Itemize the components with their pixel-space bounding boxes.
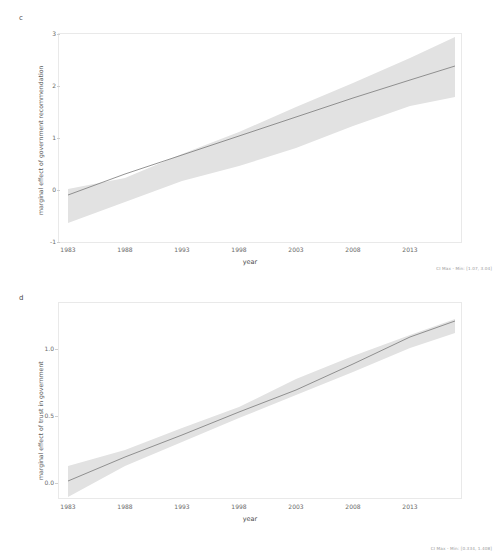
x-axis-ticks-c: 1983 1988 1993 1998 2003 2008 2013 xyxy=(0,246,500,258)
confidence-band-c xyxy=(68,37,455,223)
panel-c: c marginal effect of government recommen… xyxy=(0,0,500,280)
confidence-band-d xyxy=(68,319,455,497)
x-tick-d-1: 1988 xyxy=(105,503,145,510)
x-tick-d-0: 1983 xyxy=(48,503,88,510)
x-tick-c-3: 1998 xyxy=(219,246,259,253)
x-tick-d-6: 2013 xyxy=(390,503,430,510)
ci-range-note-c: CI Max - Min: [1.07, 3.04] xyxy=(436,266,492,271)
x-tick-c-2: 1993 xyxy=(162,246,202,253)
x-tick-d-2: 1993 xyxy=(162,503,202,510)
x-axis-label-c: year xyxy=(0,258,500,266)
ci-range-note-d: CI Max - Min: [0.334, 1.408] xyxy=(431,546,492,551)
x-tick-d-5: 2008 xyxy=(333,503,373,510)
x-tick-c-6: 2013 xyxy=(390,246,430,253)
x-tick-c-0: 1983 xyxy=(48,246,88,253)
x-tick-c-4: 2003 xyxy=(276,246,316,253)
x-axis-label-d: year xyxy=(0,515,500,523)
figure-canvas: c marginal effect of government recommen… xyxy=(0,0,500,555)
x-tick-c-1: 1988 xyxy=(105,246,145,253)
x-axis-ticks-d: 1983 1988 1993 1998 2003 2008 2013 xyxy=(0,503,500,515)
x-tick-c-5: 2008 xyxy=(333,246,373,253)
plot-area-c xyxy=(0,0,500,280)
x-tick-d-3: 1998 xyxy=(219,503,259,510)
panel-d: d marginal effect of trust in government… xyxy=(0,280,500,555)
x-tick-d-4: 2003 xyxy=(276,503,316,510)
